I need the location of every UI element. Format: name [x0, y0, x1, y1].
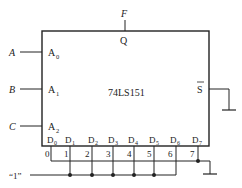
svg-text:1: 1	[56, 90, 59, 97]
svg-text:D: D	[47, 135, 54, 145]
output-pin-label: Q	[120, 35, 128, 46]
svg-text:3: 3	[115, 140, 118, 146]
svg-text:A: A	[48, 47, 56, 58]
svg-text:5: 5	[147, 149, 152, 159]
chip-name: 74LS151	[108, 87, 145, 98]
svg-text:0: 0	[56, 53, 59, 60]
svg-text:2: 2	[85, 149, 90, 159]
svg-text:4: 4	[135, 140, 138, 146]
circuit-diagram: F Q 74LS151 A A 0 B A 1 C A 2 S D0 D1 D2…	[0, 0, 242, 188]
svg-text:C: C	[9, 121, 16, 132]
svg-text:D: D	[108, 135, 115, 145]
select-input-a0: A A 0	[8, 47, 59, 60]
svg-text:2: 2	[56, 127, 59, 134]
svg-text:D: D	[149, 135, 156, 145]
output-signal-label: F	[120, 8, 128, 19]
select-input-a2: C A 2	[9, 121, 59, 134]
pin-numbers: 0 1 2 3 4 5 6 7	[45, 149, 195, 159]
svg-text:A: A	[48, 84, 56, 95]
svg-text:B: B	[9, 84, 15, 95]
svg-text:A: A	[8, 47, 16, 58]
svg-text:1: 1	[64, 149, 69, 159]
svg-text:0: 0	[45, 149, 50, 159]
svg-text:S: S	[197, 84, 203, 95]
svg-text:D: D	[170, 135, 177, 145]
logic-one-label: “1”	[9, 171, 22, 181]
svg-text:3: 3	[106, 149, 111, 159]
svg-text:7: 7	[190, 149, 195, 159]
svg-text:0: 0	[54, 140, 57, 146]
svg-text:D: D	[88, 135, 95, 145]
svg-text:A: A	[48, 121, 56, 132]
svg-text:5: 5	[156, 140, 159, 146]
svg-text:6: 6	[177, 140, 180, 146]
select-input-a1: B A 1	[9, 84, 59, 97]
svg-text:6: 6	[168, 149, 173, 159]
svg-text:D: D	[128, 135, 135, 145]
svg-text:D: D	[192, 135, 199, 145]
enable-input: S	[197, 82, 236, 110]
svg-text:2: 2	[95, 140, 98, 146]
data-pin-labels: D0 D1 D2 D3 D4 D5 D6 D7	[47, 135, 202, 146]
svg-text:1: 1	[72, 140, 75, 146]
svg-text:7: 7	[199, 140, 202, 146]
svg-text:4: 4	[127, 149, 132, 159]
svg-text:D: D	[65, 135, 72, 145]
